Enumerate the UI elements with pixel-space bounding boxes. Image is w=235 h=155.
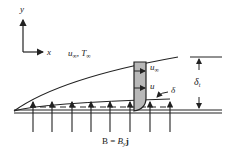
axes-icon [23,20,43,52]
velocity-boundary-layer-curve [14,99,170,111]
y-axis-label: y [20,5,24,14]
delta-label: δ [171,86,175,95]
freestream-label: u∞, T∞ [68,49,91,59]
delta-pointer [157,92,168,97]
velocity-profile [134,62,146,111]
u-infinity-label: u∞ [150,63,159,73]
flat-plate [14,110,222,113]
x-axis-label: x [47,48,51,57]
u-label: u [150,82,155,91]
field-label: B = Byj [102,137,129,147]
delta-t-label: δt [194,77,200,88]
